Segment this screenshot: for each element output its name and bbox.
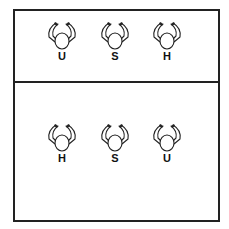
person-figure: H <box>150 20 184 62</box>
person-raised-arms-icon <box>45 122 79 154</box>
figure-label: S <box>98 152 132 164</box>
figure-label: U <box>45 50 79 62</box>
person-figure: S <box>98 20 132 62</box>
figure-label: H <box>150 50 184 62</box>
person-raised-arms-icon <box>45 20 79 52</box>
person-raised-arms-icon <box>98 20 132 52</box>
person-raised-arms-icon <box>98 122 132 154</box>
person-figure: S <box>98 122 132 164</box>
panel-divider <box>13 81 218 83</box>
figure-label: H <box>45 152 79 164</box>
person-figure: U <box>45 20 79 62</box>
person-raised-arms-icon <box>150 122 184 154</box>
figure-label: U <box>150 152 184 164</box>
person-raised-arms-icon <box>150 20 184 52</box>
figure-label: S <box>98 50 132 62</box>
person-figure: U <box>150 122 184 164</box>
person-figure: H <box>45 122 79 164</box>
